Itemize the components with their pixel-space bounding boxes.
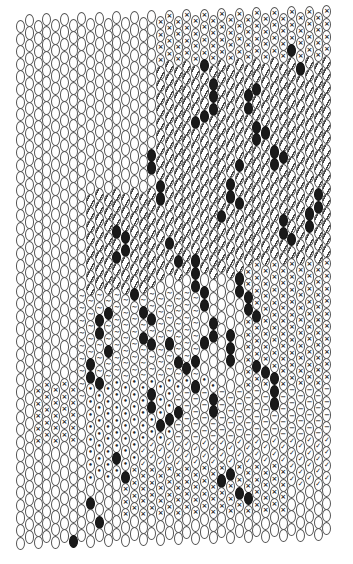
x-icon: × (245, 481, 252, 492)
tilde-icon: ~ (140, 295, 147, 306)
x-icon: × (315, 340, 322, 351)
dash-icon: − (192, 407, 199, 418)
x-icon: × (148, 465, 155, 476)
plain-bead (60, 466, 69, 479)
tilde-icon: ~ (105, 359, 112, 370)
plain-bead (121, 143, 130, 156)
x-icon: × (210, 28, 217, 39)
black-bead (226, 354, 235, 367)
slash-bead (121, 193, 130, 206)
dot-icon: • (96, 403, 103, 414)
x-bead: × (226, 505, 235, 518)
plain-bead (25, 127, 34, 140)
black-bead (305, 207, 314, 220)
plain-bead (60, 51, 69, 64)
slash-bead (191, 191, 200, 204)
plain-bead (60, 529, 69, 542)
tilde-bead: ~ (86, 320, 95, 333)
plain-bead (60, 265, 69, 278)
x-bead: × (51, 397, 60, 410)
dash-bead: − (305, 384, 314, 397)
x-icon: × (61, 417, 68, 428)
plain-bead (25, 518, 34, 531)
dot-bead: • (95, 402, 104, 415)
plain-bead (25, 152, 34, 165)
x-icon: × (315, 378, 322, 389)
x-icon: × (315, 353, 322, 364)
x-icon: × (192, 41, 199, 52)
dash-icon: − (262, 430, 269, 441)
dot-bead: • (156, 394, 165, 407)
plain-bead (235, 512, 244, 525)
x-bead: × (261, 504, 270, 517)
x-icon: × (253, 285, 260, 296)
dash-icon: − (306, 423, 313, 434)
dot-bead: • (165, 400, 174, 413)
x-bead: × (305, 346, 314, 359)
tilde-icon: ~ (157, 332, 164, 343)
x-bead: × (296, 12, 305, 25)
plain-bead (25, 266, 34, 279)
plain-bead (60, 189, 69, 202)
x-bead: × (270, 460, 279, 473)
tilde-icon: ~ (105, 296, 112, 307)
slash-bead (305, 69, 314, 82)
x-icon: × (122, 497, 129, 508)
tilde-icon: ~ (87, 309, 94, 320)
slash-bead (305, 119, 314, 132)
dash-bead: − (305, 409, 314, 422)
x-icon: × (262, 480, 269, 491)
x-bead: × (270, 309, 279, 322)
x-bead: × (322, 18, 331, 31)
slash-bead (305, 245, 314, 258)
plain-bead (16, 96, 25, 109)
dash-icon: − (183, 388, 190, 399)
tilde-icon: ~ (183, 338, 190, 349)
plain-bead (60, 277, 69, 290)
slash-bead (200, 135, 209, 148)
x-icon: × (52, 436, 59, 447)
check-icon: ✓ (227, 443, 234, 454)
slash-bead (165, 262, 174, 275)
x-bead: × (156, 29, 165, 42)
dash-icon: − (192, 419, 199, 430)
slash-bead (191, 229, 200, 242)
tilde-icon: ~ (96, 303, 103, 314)
x-icon: × (122, 484, 129, 495)
x-bead: × (270, 271, 279, 284)
dot-bead: • (130, 439, 139, 452)
tilde-bead: ~ (95, 289, 104, 302)
slash-bead (200, 198, 209, 211)
x-icon: × (297, 353, 304, 364)
slash-bead (156, 66, 165, 79)
x-bead: × (51, 435, 60, 448)
plain-bead (60, 454, 69, 467)
slash-bead (226, 90, 235, 103)
tilde-icon: ~ (96, 340, 103, 351)
dot-bead: • (95, 428, 104, 441)
plain-bead (25, 417, 34, 430)
dot-icon: • (140, 383, 147, 394)
x-icon: × (280, 505, 287, 516)
x-icon: × (157, 55, 164, 66)
dash-bead: − (226, 392, 235, 405)
tilde-icon: ~ (148, 326, 155, 337)
plain-bead (95, 113, 104, 126)
x-icon: × (245, 380, 252, 391)
black-bead (121, 244, 130, 257)
plain-bead (51, 32, 60, 45)
slash-bead (261, 215, 270, 228)
plain-bead (226, 379, 235, 392)
black-bead (191, 116, 200, 129)
plain-bead (322, 522, 331, 535)
plain-bead (95, 87, 104, 100)
plain-bead (51, 498, 60, 511)
x-icon: × (245, 468, 252, 479)
black-bead (156, 419, 165, 432)
plain-bead (95, 125, 104, 138)
tilde-icon: ~ (183, 313, 190, 324)
slash-bead (235, 58, 244, 71)
plain-bead (130, 175, 139, 188)
plain-bead (16, 474, 25, 487)
plain-bead (226, 367, 235, 380)
